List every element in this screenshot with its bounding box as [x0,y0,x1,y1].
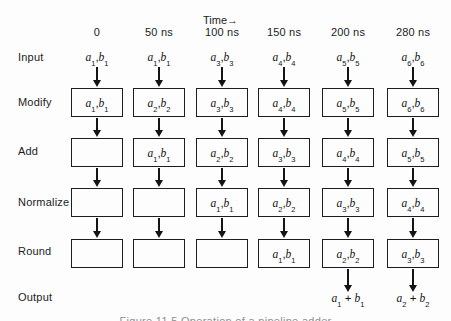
input-value: a1,b1 [147,51,170,63]
modify-stage-box: a3,b3 [196,88,248,117]
row-label-round: Round [18,245,51,257]
normalize-stage-box [71,188,123,217]
time-label: 100 ns [205,26,239,38]
arrow-stem [158,67,160,80]
arrow-head [218,231,226,238]
time-label: 280 ns [396,26,430,38]
round-stage-box [196,239,248,268]
arrow-head [409,285,417,292]
round-stage-box: a3,b3 [387,239,439,268]
stage-value: a5,b5 [401,147,424,159]
stage-value: a4,b4 [336,147,359,159]
arrow-head [93,80,101,87]
modify-stage-box: a5,b5 [322,88,374,117]
input-value: a1,b1 [85,51,108,63]
arrow-stem [96,168,98,180]
arrow-head [218,130,226,137]
normalize-stage-box: a2,b2 [258,188,310,217]
normalize-stage-box: a3,b3 [322,188,374,217]
arrow-head [93,130,101,137]
time-label: 200 ns [331,26,365,38]
modify-stage-box: a4,b4 [258,88,310,117]
arrow-stem [283,218,285,231]
round-stage-box [133,239,185,268]
arrow-head [155,231,163,238]
arrow-head [280,180,288,187]
arrow-head [93,180,101,187]
stage-value: a2,b2 [336,248,359,260]
time-label: 50 ns [145,26,173,38]
arrow-stem [412,218,414,231]
normalize-stage-box: a1,b1 [196,188,248,217]
arrow-stem [158,168,160,180]
arrow-stem [96,118,98,130]
output-value: a2 + b2 [397,292,430,304]
arrow-stem [283,168,285,180]
stage-value: a3,b3 [272,147,295,159]
round-stage-box: a2,b2 [322,239,374,268]
arrow-stem [96,67,98,80]
add-stage-box [71,138,123,167]
input-value: a3,b3 [210,51,233,63]
add-stage-box: a5,b5 [387,138,439,167]
arrow-head [280,130,288,137]
stage-value: a3,b3 [401,248,424,260]
input-value: a4,b4 [272,51,295,63]
arrow-head [344,231,352,238]
modify-stage-box: a6,b6 [387,88,439,117]
stage-value: a2,b2 [272,197,295,209]
input-value: a6,b6 [401,51,424,63]
arrow-stem [347,168,349,180]
arrow-head [155,130,163,137]
figure-caption: Figure 11.5 Operation of a pipeline adde… [0,315,451,321]
output-value: a1 + b1 [332,292,365,304]
arrow-head [409,80,417,87]
arrow-stem [412,269,414,285]
stage-value: a6,b6 [401,97,424,109]
stage-value: a5,b5 [336,97,359,109]
add-stage-box: a2,b2 [196,138,248,167]
stage-value: a4,b4 [272,97,295,109]
stage-value: a1,b1 [210,197,233,209]
modify-stage-box: a2,b2 [133,88,185,117]
arrow-head [409,231,417,238]
stage-value: a2,b2 [147,97,170,109]
add-stage-box: a3,b3 [258,138,310,167]
add-stage-box: a4,b4 [322,138,374,167]
arrow-stem [283,67,285,80]
row-label-modify: Modify [18,96,52,108]
arrow-stem [347,67,349,80]
stage-value: a1,b1 [147,147,170,159]
round-stage-box [71,239,123,268]
stage-value: a3,b3 [210,97,233,109]
stage-value: a2,b2 [210,147,233,159]
arrow-stem [158,118,160,130]
stage-value: a1,b1 [272,248,295,260]
time-label: 150 ns [267,26,301,38]
arrow-stem [158,218,160,231]
round-stage-box: a1,b1 [258,239,310,268]
arrow-stem [412,168,414,180]
arrow-stem [347,118,349,130]
arrow-head [93,231,101,238]
row-label-input: Input [18,51,43,63]
stage-value: a3,b3 [336,197,359,209]
arrow-stem [347,269,349,285]
modify-stage-box: a1,b1 [71,88,123,117]
stage-value: a4,b4 [401,197,424,209]
arrow-head [344,180,352,187]
pipeline-adder-diagram: Time→ InputModifyAddNormalizeRoundOutput… [0,0,451,321]
row-label-add: Add [18,145,38,157]
row-label-normalize: Normalize [18,196,69,208]
arrow-stem [221,118,223,130]
arrow-head [344,80,352,87]
stage-value: a1,b1 [85,97,108,109]
arrow-head [344,130,352,137]
time-label: 0 [94,26,100,38]
arrow-head [280,231,288,238]
arrow-head [409,130,417,137]
arrow-head [155,80,163,87]
normalize-stage-box: a4,b4 [387,188,439,217]
arrow-stem [96,218,98,231]
arrow-stem [221,168,223,180]
